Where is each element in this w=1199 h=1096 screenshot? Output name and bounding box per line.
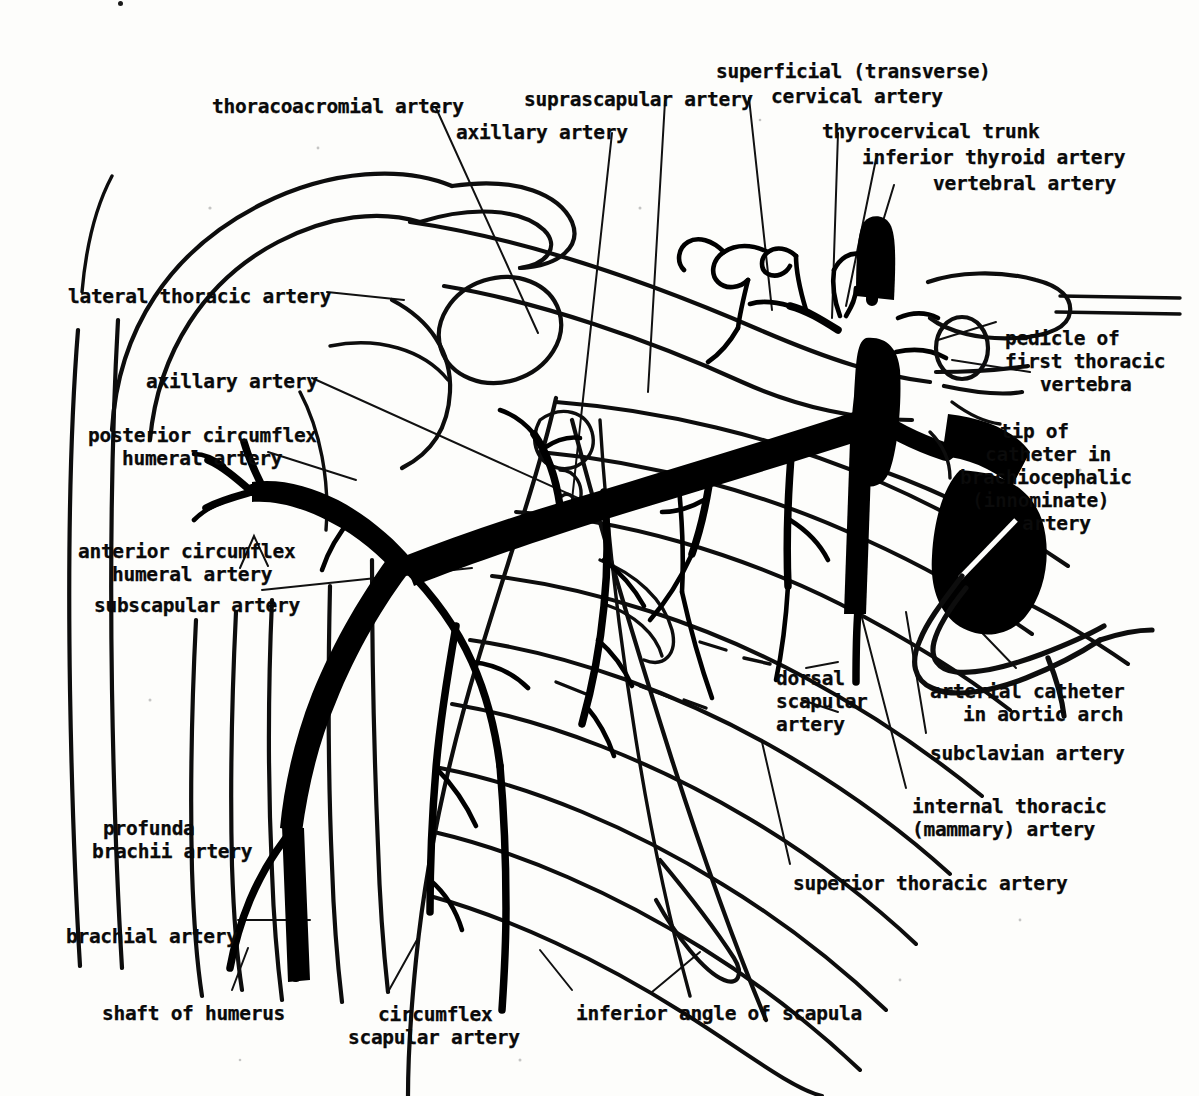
arteriogram-figure: .bone { fill:none; stroke:#0d0d0d; strok… <box>0 0 1199 1096</box>
label-subscapular-artery: subscapular artery <box>94 594 300 618</box>
label-pedicle-line-3: vertebra <box>1040 373 1132 397</box>
label-tip-catheter-line-2: catheter in <box>985 443 1111 467</box>
label-lateral-thoracic-artery: lateral thoracic artery <box>68 285 331 309</box>
label-anterior-circumflex-line-1: anterior circumflex <box>78 540 295 564</box>
leader-lines <box>232 98 1030 992</box>
label-circumflex-scapular-line-1: circumflex <box>378 1003 492 1027</box>
label-superficial-cervical-artery-2: cervical artery <box>771 85 943 109</box>
label-thoracoacromial-artery: thoracoacromial artery <box>212 95 464 119</box>
label-tip-catheter-line-5: artery <box>1022 512 1091 536</box>
label-profunda-brachii-line-2: brachii artery <box>92 840 252 864</box>
label-dorsal-scapular-line-3: artery <box>776 713 845 737</box>
label-axillary-artery-upper: axillary artery <box>456 121 628 145</box>
label-tip-catheter-line-4: (innominate) <box>972 489 1109 513</box>
label-tip-catheter-line-1: tip of <box>1000 420 1069 444</box>
label-anterior-circumflex-line-2: humeral artery <box>112 563 272 587</box>
label-internal-thoracic-line-2: (mammary) artery <box>912 818 1095 842</box>
label-subclavian-artery: subclavian artery <box>930 742 1124 766</box>
label-brachial-artery: brachial artery <box>66 925 238 949</box>
label-superficial-cervical-artery-1: superficial (transverse) <box>716 60 991 84</box>
label-circumflex-scapular-line-2: scapular artery <box>348 1026 520 1050</box>
label-dorsal-scapular-line-2: scapular <box>776 690 868 714</box>
label-pedicle-line-2: first thoracic <box>1005 350 1165 374</box>
label-superior-thoracic-artery: superior thoracic artery <box>793 872 1068 896</box>
label-dorsal-scapular-line-1: dorsal <box>776 667 845 691</box>
label-thyrocervical-trunk: thyrocervical trunk <box>822 120 1039 144</box>
label-inferior-thyroid-artery: inferior thyroid artery <box>862 146 1125 170</box>
label-vertebral-artery: vertebral artery <box>933 172 1116 196</box>
label-posterior-circumflex-line-2: humeral artery <box>122 447 282 471</box>
label-axillary-artery-left: axillary artery <box>146 370 318 394</box>
label-suprascapular-artery: suprascapular artery <box>524 88 753 112</box>
label-arterial-catheter-line-1: arterial catheter <box>930 680 1124 704</box>
label-posterior-circumflex-line-1: posterior circumflex <box>88 424 317 448</box>
label-inferior-angle-of-scapula: inferior angle of scapula <box>576 1002 862 1026</box>
label-internal-thoracic-line-1: internal thoracic <box>912 795 1106 819</box>
label-tip-catheter-line-3: brachiocephalic <box>960 466 1132 490</box>
ink-speck <box>118 1 123 6</box>
label-pedicle-line-1: pedicle of <box>1005 327 1119 351</box>
label-arterial-catheter-line-2: in aortic arch <box>963 703 1123 727</box>
label-profunda-brachii-line-1: profunda <box>103 817 195 841</box>
label-shaft-of-humerus: shaft of humerus <box>102 1002 285 1026</box>
